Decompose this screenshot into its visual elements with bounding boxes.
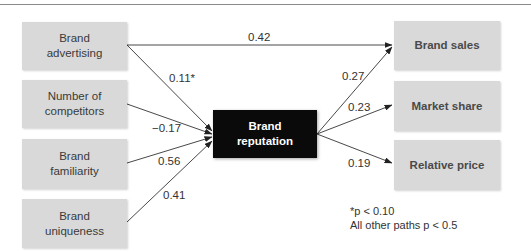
node-label: Relative price [410,158,485,173]
node-relative-price: Relative price [394,140,500,190]
node-number-of-competitors: Number of competitors [22,80,127,128]
footnote-significance: *p < 0.10 [350,204,457,218]
edge-label-advertising-reputation: 0.11* [169,72,195,84]
edge-label-advertising-sales: 0.42 [248,31,270,43]
node-brand-reputation: Brand reputation [213,110,317,158]
edge-label-uniqueness-reputation: 0.41 [163,189,185,201]
edge-label-familiarity-reputation: 0.56 [158,155,180,167]
node-label: Brand uniqueness [45,209,104,239]
edge-label-reputation-market-share: 0.23 [348,101,370,113]
node-brand-sales: Brand sales [394,21,500,70]
node-brand-uniqueness: Brand uniqueness [22,199,127,248]
footnote-other-paths: All other paths p < 0.5 [350,218,457,232]
node-label: Brand advertising [47,31,103,61]
edge-label-competitors-reputation: −0.17 [152,122,181,134]
node-brand-advertising: Brand advertising [22,22,127,70]
node-label: Market share [412,99,483,114]
node-label: Brand sales [414,38,479,53]
node-label: Brand familiarity [50,149,99,179]
edge-advertising-to-reputation [127,45,212,131]
edge-reputation-to-sales [317,47,392,134]
edge-label-reputation-relative-price: 0.19 [348,157,370,169]
node-brand-familiarity: Brand familiarity [22,139,127,189]
edge-label-reputation-sales: 0.27 [342,70,364,82]
footnote: *p < 0.10 All other paths p < 0.5 [350,204,457,232]
node-market-share: Market share [394,81,500,131]
node-label: Brand reputation [237,119,293,149]
edge-uniqueness-to-reputation [127,141,212,222]
node-label: Number of competitors [45,89,104,119]
